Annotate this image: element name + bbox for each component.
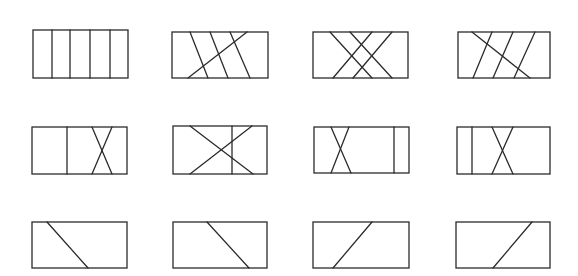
line-segment xyxy=(47,222,88,268)
figure-r1c1 xyxy=(33,30,128,78)
figure-r2c1 xyxy=(32,127,127,174)
figure-r1c2 xyxy=(172,32,268,78)
line-segment xyxy=(210,32,228,78)
rectangle-frame xyxy=(314,127,409,173)
line-segment xyxy=(493,222,532,268)
rectangle-frame xyxy=(172,32,268,78)
rectangle-frame xyxy=(457,127,550,174)
line-segment xyxy=(514,32,535,78)
rectangle-frame xyxy=(32,127,127,174)
rectangle-frame xyxy=(313,32,408,78)
figure-r1c3 xyxy=(313,32,408,78)
rectangle-frame xyxy=(458,32,550,78)
line-segment xyxy=(207,222,249,268)
line-segment xyxy=(230,32,250,78)
line-segment xyxy=(333,222,372,268)
line-segment xyxy=(190,32,208,78)
figure-r3c1 xyxy=(32,222,127,268)
line-segment xyxy=(473,32,492,78)
figure-r1c4 xyxy=(458,32,550,78)
rectangle-frame xyxy=(173,222,267,268)
figure-r3c2 xyxy=(173,222,267,268)
figure-r3c4 xyxy=(456,222,550,268)
rectangle-frame xyxy=(456,222,550,268)
figure-r3c3 xyxy=(313,222,409,268)
figure-grid-diagram xyxy=(0,0,578,276)
rectangle-frame xyxy=(313,222,409,268)
rectangle-frame xyxy=(33,30,128,78)
rectangle-frame xyxy=(32,222,127,268)
line-segment xyxy=(188,32,247,78)
figure-r2c3 xyxy=(314,127,409,173)
figure-r2c2 xyxy=(173,126,267,174)
figure-r2c4 xyxy=(457,127,550,174)
line-segment xyxy=(472,32,530,78)
line-segment xyxy=(493,32,513,78)
